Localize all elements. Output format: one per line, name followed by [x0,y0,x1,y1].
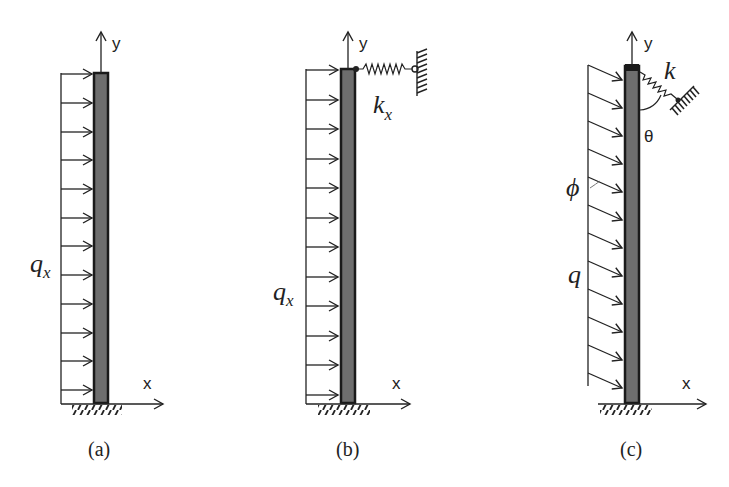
x-axis-label: x [392,374,401,393]
fixed-support-hatch [318,405,370,415]
load-arrows [61,74,92,390]
column-cap [625,64,639,71]
fixed-support-hatch [72,405,122,415]
load-arrows [588,65,622,388]
fixed-support-hatch [600,405,652,415]
column [625,66,639,403]
column [341,69,355,403]
wall-hatch [417,49,427,93]
panel-caption: (a) [88,438,110,461]
load-arrows [306,70,338,395]
x-axis-label: x [143,374,152,393]
column [94,73,108,403]
y-axis-label: y [644,34,653,53]
spring-label: kx [373,90,393,124]
cantilever-column-diagram: y x qx (a) y x [0,0,729,487]
spring [356,64,414,74]
spring-label: k [664,56,676,85]
panel-caption: (b) [336,438,359,461]
angle-arc-theta [640,95,661,110]
load-angle-label: ϕ [566,173,579,202]
spring-angle-label: θ [644,127,653,146]
x-axis-label: x [682,374,691,393]
panel-a: y x qx (a) [30,32,163,461]
angle-arc-phi [590,181,600,188]
panel-caption: (c) [620,438,642,461]
y-axis-label: y [112,34,121,53]
panel-b: y x kx qx (b) [273,32,427,461]
load-label: qx [30,249,51,282]
load-label: qx [273,277,294,310]
panel-c: y x k θ ϕ q (c) [566,32,706,461]
load-label: q [568,260,581,289]
y-axis-label: y [359,34,368,53]
